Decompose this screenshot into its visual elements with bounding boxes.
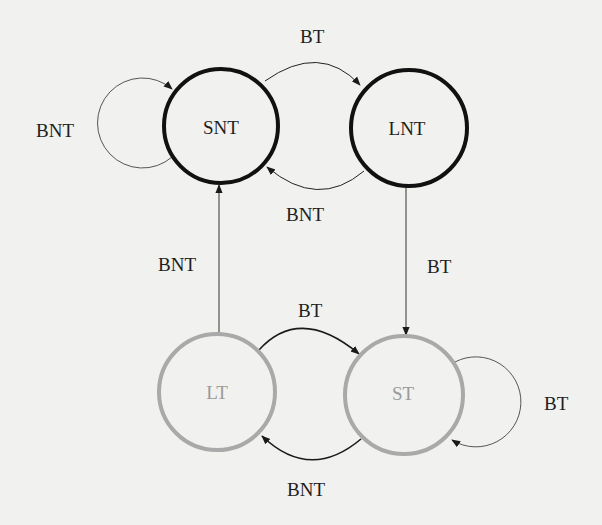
edge-label-snt-self: BNT	[36, 121, 74, 140]
state-diagram	[0, 0, 602, 525]
edge-label-snt-to-lnt: BT	[300, 27, 324, 46]
edge-label-lt-to-st: BT	[298, 301, 322, 320]
edge-lnt-to-snt	[267, 167, 364, 190]
state-st-label: ST	[392, 384, 414, 403]
edge-snt-self	[98, 78, 172, 168]
edge-label-lnt-to-snt: BNT	[286, 205, 324, 224]
edge-snt-to-lnt	[265, 62, 360, 85]
edge-label-st-self: BT	[544, 394, 568, 413]
edge-label-lt-to-snt: BNT	[158, 255, 196, 274]
edge-label-st-to-lt: BNT	[287, 480, 325, 499]
state-snt-label: SNT	[203, 118, 239, 137]
edge-st-to-lt	[262, 436, 361, 460]
edge-label-lnt-to-st: BT	[427, 257, 451, 276]
edge-lt-to-st	[259, 328, 359, 354]
state-lt-label: LT	[206, 383, 227, 402]
state-lnt-label: LNT	[389, 119, 426, 138]
